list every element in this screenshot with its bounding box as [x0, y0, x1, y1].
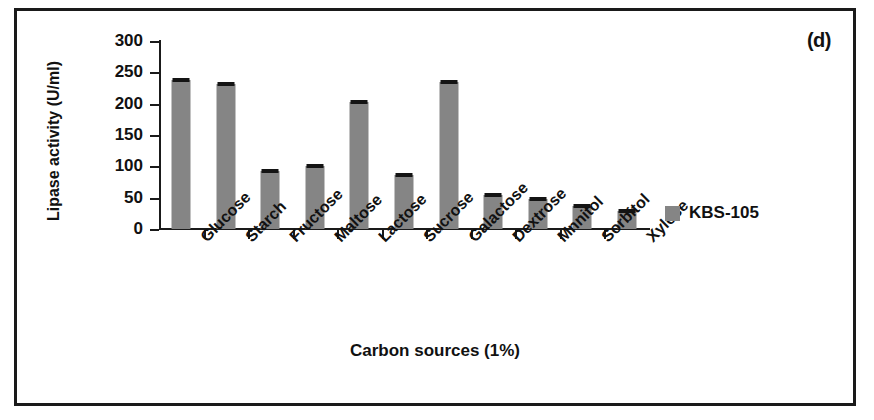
error-bar-cap	[306, 164, 323, 168]
x-tick-label: Maltose	[331, 233, 344, 246]
x-tick-label: Xylose	[643, 233, 656, 246]
error-bar-cap	[173, 78, 190, 82]
x-axis-tick-labels: GlucoseStarchFructoseMaltoseLactoseSucro…	[159, 233, 649, 329]
y-tick-mark	[150, 166, 159, 168]
bar	[172, 80, 191, 229]
y-tick-mark	[150, 135, 159, 137]
y-tick-label: 150	[115, 125, 143, 145]
y-axis-title-wrapper: Lipase activity (U/ml)	[41, 41, 67, 241]
x-tick-label: Sorbitol	[598, 233, 611, 246]
x-tick-label: Sucrose	[420, 233, 433, 246]
x-tick-label: Starch	[242, 233, 255, 246]
error-bar-cap	[217, 82, 234, 86]
y-tick-label: 0	[134, 219, 143, 239]
panel-label: (d)	[807, 29, 831, 52]
y-tick-label: 300	[115, 31, 143, 51]
x-tick-label: Mnnitol	[554, 233, 567, 246]
x-tick-label: Dextrose	[509, 233, 522, 246]
y-tick-mark	[150, 229, 159, 231]
x-tick-label: Lactose	[375, 233, 388, 246]
figure-panel: (d) Lipase activity (U/ml) 0501001502002…	[14, 8, 856, 406]
legend-swatch-kbs-105	[665, 206, 680, 221]
error-bar-cap	[440, 80, 457, 84]
legend-label-kbs-105: KBS-105	[689, 203, 759, 223]
error-bar-cap	[485, 193, 502, 197]
error-bar-cap	[351, 100, 368, 104]
y-tick-mark	[150, 41, 159, 43]
y-axis-title: Lipase activity (U/ml)	[41, 41, 67, 241]
error-bar-cap	[262, 169, 279, 173]
y-tick-mark	[150, 198, 159, 200]
y-tick-label: 250	[115, 62, 143, 82]
y-tick-mark	[150, 72, 159, 74]
y-axis-tick-labels: 050100150200250300	[79, 41, 153, 229]
y-tick-label: 200	[115, 94, 143, 114]
x-tick-label: Glucose	[197, 233, 210, 246]
x-tick-label: Galactose	[465, 233, 478, 246]
x-tick-label: Fructose	[286, 233, 299, 246]
x-axis-title: Carbon sources (1%)	[17, 341, 853, 361]
y-tick-label: 100	[115, 156, 143, 176]
y-tick-mark	[150, 104, 159, 106]
bar-slot	[159, 41, 204, 229]
y-tick-label: 50	[124, 188, 143, 208]
error-bar-cap	[395, 173, 412, 177]
legend: KBS-105	[665, 203, 759, 223]
bar-slot	[248, 41, 293, 229]
